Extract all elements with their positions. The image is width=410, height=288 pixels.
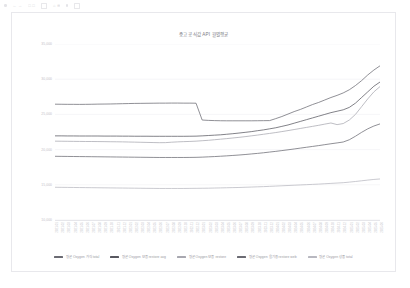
x-axis-tick-label: 2023-05	[228, 222, 231, 233]
x-axis-tick-label: 2024-09	[326, 222, 329, 233]
legend-swatch-icon	[177, 256, 186, 257]
x-axis-tick-label: 2021-10	[111, 222, 114, 233]
x-axis-tick-label: 2024-03	[289, 222, 292, 233]
x-axis-tick-label: 2021-09	[105, 222, 108, 233]
x-axis-tick-label: 2024-06	[308, 222, 311, 233]
x-axis-tick-label: 2021-02	[62, 222, 65, 233]
browser-toolbar: ← → □ □ ⌂ ⊕	[0, 0, 410, 11]
x-axis: 2021-012021-022021-032021-042021-052021-…	[55, 220, 380, 254]
x-axis-tick-label: 2022-07	[167, 222, 170, 233]
x-axis-tick-label: 2022-02	[136, 222, 139, 233]
window-controls-icon[interactable]: □ □	[28, 3, 35, 8]
chart-title: 중고 공식값 API 월별평균	[12, 32, 395, 38]
chart-gridlines	[55, 44, 380, 220]
legend-swatch-icon	[237, 256, 246, 257]
x-axis-tick-label: 2025-05	[375, 222, 378, 233]
x-axis-tick-label: 2023-04	[222, 222, 225, 233]
x-axis-tick-label: 2023-09	[252, 222, 255, 233]
x-axis-tick-label: 2023-06	[234, 222, 237, 233]
x-axis-tick-label: 2022-08	[173, 222, 176, 233]
chart-series-group	[55, 66, 380, 189]
x-axis-tick-label: 2021-03	[68, 222, 71, 233]
x-axis-tick-label: 2021-11	[118, 222, 121, 233]
x-axis-tick-label: 2024-08	[320, 222, 323, 233]
x-axis-tick-label: 2023-01	[203, 222, 206, 233]
line-chart-svg	[55, 44, 380, 220]
x-axis-tick-label: 2025-02	[357, 222, 360, 233]
series-line-3	[55, 124, 380, 158]
x-axis-tick-label: 2022-12	[197, 222, 200, 233]
legend-item[interactable]: 평균 Oxygen 가격 total	[54, 255, 99, 259]
x-axis-tick-label: 2021-08	[99, 222, 102, 233]
home-icon[interactable]: ⌂ ⊕	[53, 3, 60, 8]
x-axis-tick-label: 2022-01	[130, 222, 133, 233]
y-axis-tick-label: 15,000	[41, 183, 52, 187]
legend-swatch-icon	[308, 256, 317, 257]
x-axis-tick-label: 2024-02	[283, 222, 286, 233]
x-axis-tick-label: 2024-10	[332, 222, 335, 233]
chart-card: 중고 공식값 API 월별평균 35,00030,00025,00020,000…	[11, 12, 396, 272]
x-axis-tick-label: 2022-09	[179, 222, 182, 233]
x-axis-tick-label: 2021-04	[75, 222, 78, 233]
legend-item[interactable]: 평균 Oxygen 보증 restore	[177, 255, 226, 259]
menu-icon[interactable]	[4, 4, 7, 7]
x-axis-tick-label: 2023-02	[210, 222, 213, 233]
legend-label: 평균 Oxygen 가격 total	[66, 255, 99, 259]
legend-item[interactable]: 평균 Oxygen 올기용 restore web	[237, 255, 296, 259]
x-axis-tick-label: 2025-04	[369, 222, 372, 233]
x-axis-tick-label: 2024-12	[344, 222, 347, 233]
tab-icon[interactable]	[74, 3, 80, 9]
chart-plot-area: 35,00030,00025,00020,00015,00010,000	[55, 44, 380, 220]
legend-label: 평균 Oxygen 상품 total	[319, 255, 352, 259]
y-axis-tick-label: 35,000	[41, 42, 52, 46]
x-axis-tick-label: 2023-03	[216, 222, 219, 233]
x-axis-tick-label: 2025-06	[381, 222, 384, 233]
legend-label: 평균 Oxygen 보증 restore avg	[122, 255, 166, 259]
x-axis-tick-label: 2024-07	[314, 222, 317, 233]
legend-swatch-icon	[54, 256, 63, 257]
reload-icon[interactable]	[41, 3, 47, 9]
x-axis-tick-label: 2022-03	[142, 222, 145, 233]
x-axis-tick-label: 2022-06	[160, 222, 163, 233]
nav-arrows-icon[interactable]: ← →	[13, 3, 23, 8]
x-axis-tick-label: 2021-06	[87, 222, 90, 233]
x-axis-tick-label: 2023-11	[265, 222, 268, 233]
x-axis-tick-label: 2024-05	[301, 222, 304, 233]
series-line-4	[55, 179, 380, 189]
x-axis-tick-label: 2023-10	[259, 222, 262, 233]
legend-label: 평균 Oxygen 보증 restore	[189, 255, 227, 259]
legend-item[interactable]: 평균 Oxygen 보증 restore avg	[110, 255, 166, 259]
x-axis-tick-label: 2022-04	[148, 222, 151, 233]
x-axis-tick-label: 2021-07	[93, 222, 96, 233]
x-axis-tick-label: 2024-01	[277, 222, 280, 233]
x-axis-tick-label: 2024-11	[338, 222, 341, 233]
legend-item[interactable]: 평균 Oxygen 상품 total	[308, 255, 353, 259]
y-axis-tick-label: 20,000	[41, 148, 52, 152]
x-axis-tick-label: 2023-12	[271, 222, 274, 233]
x-axis-tick-label: 2021-12	[124, 222, 127, 233]
legend-swatch-icon	[110, 256, 119, 257]
x-axis-tick-label: 2025-01	[351, 222, 354, 233]
y-axis-tick-label: 10,000	[41, 218, 52, 222]
x-axis-tick-label: 2023-08	[246, 222, 249, 233]
series-line-1	[55, 82, 380, 136]
x-axis-tick-label: 2021-01	[56, 222, 59, 233]
x-axis-tick-label: 2025-03	[363, 222, 366, 233]
x-axis-tick-label: 2024-04	[295, 222, 298, 233]
chart-legend: 평균 Oxygen 가격 total평균 Oxygen 보증 restore a…	[12, 255, 395, 259]
y-axis-tick-label: 30,000	[41, 77, 52, 81]
x-axis-tick-label: 2023-07	[240, 222, 243, 233]
x-axis-tick-label: 2022-05	[154, 222, 157, 233]
x-axis-tick-label: 2022-10	[185, 222, 188, 233]
x-axis-tick-label: 2021-05	[81, 222, 84, 233]
y-axis-tick-label: 25,000	[41, 112, 52, 116]
overflow-icon[interactable]	[66, 4, 69, 7]
x-axis-tick-label: 2022-11	[191, 222, 194, 233]
legend-label: 평균 Oxygen 올기용 restore web	[249, 255, 297, 259]
